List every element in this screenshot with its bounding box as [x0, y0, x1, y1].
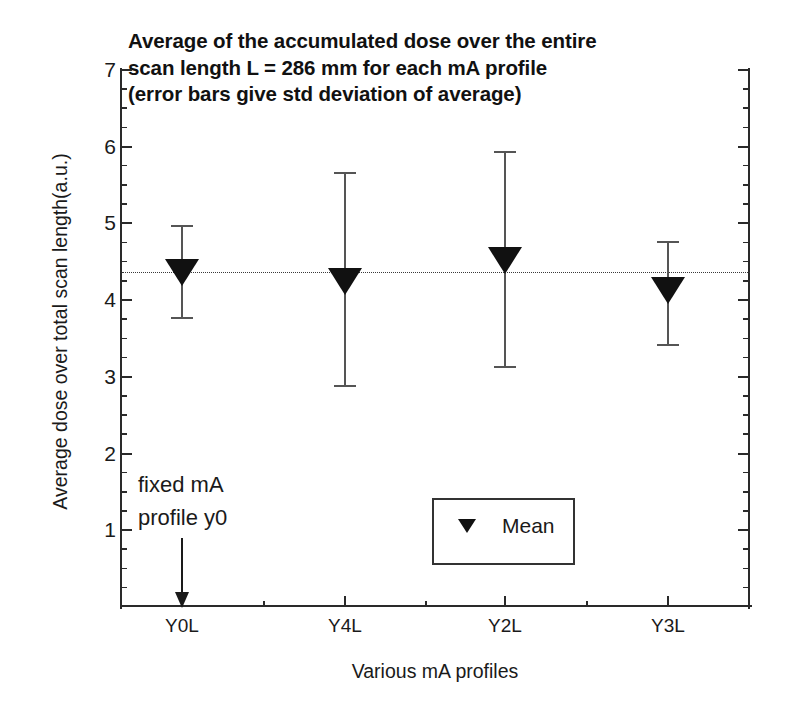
- y-tick: [120, 395, 127, 397]
- y-tick: [120, 165, 127, 167]
- y-tick: [120, 433, 127, 435]
- y-tick: [120, 146, 132, 148]
- y-tick: [738, 529, 750, 531]
- x-axis-spine: [120, 605, 752, 607]
- y-tick: [120, 203, 127, 205]
- y-tick: [120, 107, 127, 109]
- y-tick: [743, 568, 750, 570]
- x-tick-label-y2l: Y2L: [460, 615, 550, 637]
- legend-entry-mean: Mean: [434, 514, 573, 538]
- annotation-fixed-ma: fixed mA profile y0: [138, 468, 227, 534]
- triangle-down-icon: [488, 247, 522, 274]
- x-tick: [344, 596, 346, 607]
- x-tick: [667, 596, 669, 607]
- y-tick: [120, 568, 127, 570]
- y-tick: [120, 587, 127, 589]
- error-bar-cap-lower: [334, 385, 356, 387]
- y-tick: [120, 529, 132, 531]
- y-tick: [743, 318, 750, 320]
- error-bar-cap-lower: [657, 344, 679, 346]
- y-tick: [743, 242, 750, 244]
- y-tick: [738, 453, 750, 455]
- annotation-arrow-shaft: [181, 538, 183, 596]
- y-tick: [120, 127, 127, 129]
- y-tick: [120, 88, 127, 90]
- y-tick: [743, 587, 750, 589]
- triangle-down-icon: [458, 519, 476, 533]
- y-tick: [120, 548, 127, 550]
- y-tick-label: 6: [76, 135, 116, 159]
- y-tick: [120, 261, 127, 263]
- y-tick: [743, 510, 750, 512]
- x-tick-label-y0l: Y0L: [137, 615, 227, 637]
- error-bar-cap-upper: [171, 225, 193, 227]
- y-axis-label: Average dose over total scan length(a.u.…: [49, 97, 72, 567]
- y-tick: [743, 127, 750, 129]
- y-tick: [120, 184, 127, 186]
- y-tick: [738, 69, 750, 71]
- y-tick: [120, 472, 127, 474]
- triangle-down-icon: [651, 277, 685, 304]
- error-bar-cap-upper: [334, 172, 356, 174]
- y-tick: [743, 165, 750, 167]
- y-tick: [743, 357, 750, 359]
- y-tick: [743, 280, 750, 282]
- x-tick-minor: [263, 601, 265, 607]
- y-tick: [743, 472, 750, 474]
- y-tick: [743, 88, 750, 90]
- y-tick-label: 3: [76, 365, 116, 389]
- x-tick-label-y3l: Y3L: [623, 615, 713, 637]
- y-tick: [120, 414, 127, 416]
- y-tick-label: 5: [76, 211, 116, 235]
- plot-area: 1234567 Y0LY4LY2LY3L fixed mA profile y0…: [120, 70, 750, 607]
- y-tick: [120, 491, 127, 493]
- y-tick: [120, 318, 127, 320]
- triangle-down-icon: [328, 268, 362, 295]
- y-tick: [120, 242, 127, 244]
- y-tick-label: 2: [76, 442, 116, 466]
- triangle-down-icon: [165, 259, 199, 286]
- x-tick: [504, 596, 506, 607]
- y-tick: [120, 453, 132, 455]
- y-tick: [120, 69, 132, 71]
- y-tick: [738, 146, 750, 148]
- y-tick-label: 1: [76, 518, 116, 542]
- x-axis-label: Various mA profiles: [120, 660, 750, 683]
- y-tick: [743, 184, 750, 186]
- x-tick-minor: [425, 601, 427, 607]
- y-tick: [738, 299, 750, 301]
- annotation-arrow-head: [175, 592, 189, 608]
- y-tick-label: 7: [76, 58, 116, 82]
- error-bar-cap-lower: [171, 317, 193, 319]
- chart-figure: Average of the accumulated dose over the…: [0, 0, 790, 720]
- y-tick: [743, 414, 750, 416]
- y-tick: [743, 395, 750, 397]
- y-tick: [738, 376, 750, 378]
- reference-line-dotted: [122, 272, 750, 273]
- error-bar-cap-lower: [494, 366, 516, 368]
- x-tick-minor: [586, 601, 588, 607]
- y-tick: [743, 433, 750, 435]
- x-tick-label-y4l: Y4L: [300, 615, 390, 637]
- y-tick: [743, 203, 750, 205]
- y-tick: [120, 357, 127, 359]
- y-tick: [743, 107, 750, 109]
- error-bar-cap-upper: [494, 151, 516, 153]
- y-tick: [743, 261, 750, 263]
- y-tick: [120, 510, 127, 512]
- y-tick: [743, 338, 750, 340]
- y-tick: [743, 548, 750, 550]
- y-tick: [120, 280, 127, 282]
- error-bar-cap-upper: [657, 241, 679, 243]
- y-tick: [743, 491, 750, 493]
- y-tick: [120, 299, 132, 301]
- chart-legend: Mean: [432, 498, 575, 565]
- y-tick: [120, 338, 127, 340]
- legend-label-mean: Mean: [502, 514, 555, 538]
- y-tick: [738, 222, 750, 224]
- x-tick-minor: [748, 601, 750, 607]
- y-tick: [120, 376, 132, 378]
- y-tick-label: 4: [76, 288, 116, 312]
- y-tick: [120, 222, 132, 224]
